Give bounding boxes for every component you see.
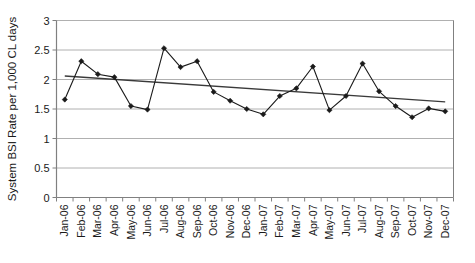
- x-tick-label: Mar-06: [91, 204, 103, 237]
- x-tick-label: Jul-07: [356, 204, 368, 233]
- x-tick-label: Jun-07: [340, 204, 352, 236]
- x-tick-label: Nov-06: [224, 204, 236, 238]
- chart-container: 00.511.522.53 Jan-06Feb-06Mar-06Apr-06Ma…: [0, 0, 475, 263]
- x-tick-label: Feb-07: [273, 204, 285, 237]
- y-axis-title: System BSI Rate per 1,000 CL days: [6, 17, 18, 202]
- x-tick-label: Jul-06: [158, 204, 170, 233]
- x-tick-label: Dec-07: [439, 204, 451, 238]
- x-tick-label: Dec-06: [240, 204, 252, 238]
- x-tick-label: May-07: [323, 204, 335, 239]
- y-tick-label: 2.5: [34, 44, 49, 56]
- x-tick-label: Oct-06: [207, 204, 219, 236]
- y-tick-label: 1.5: [34, 103, 49, 115]
- x-tick-label: Nov-07: [422, 204, 434, 238]
- x-tick-label: Jun-06: [141, 204, 153, 236]
- x-tick-label: Feb-06: [75, 204, 87, 237]
- chart-background: [0, 0, 475, 263]
- line-chart: 00.511.522.53 Jan-06Feb-06Mar-06Apr-06Ma…: [0, 0, 475, 263]
- x-tick-label: Oct-07: [406, 204, 418, 236]
- y-tick-label: 2: [43, 74, 49, 86]
- y-tick-label: 0: [43, 192, 49, 204]
- x-tick-label: Sep-07: [389, 204, 401, 238]
- x-tick-label: Mar-07: [290, 204, 302, 237]
- x-tick-label: Aug-07: [373, 204, 385, 238]
- x-tick-label: Jan-06: [58, 204, 70, 236]
- y-tick-label: 0.5: [34, 162, 49, 174]
- x-tick-label: Aug-06: [174, 204, 186, 238]
- y-axis-title-text: System BSI Rate per 1,000 CL days: [6, 17, 18, 202]
- x-tick-label: Apr-07: [307, 204, 319, 236]
- x-tick-label: May-06: [125, 204, 137, 239]
- x-tick-label: Sep-06: [191, 204, 203, 238]
- x-tick-label: Jan-07: [257, 204, 269, 236]
- y-tick-label: 3: [43, 15, 49, 27]
- y-tick-label: 1: [43, 133, 49, 145]
- x-tick-label: Apr-06: [108, 204, 120, 236]
